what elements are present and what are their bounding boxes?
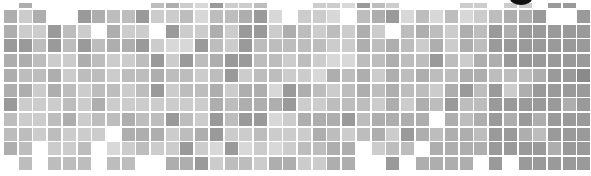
heatmap-cell <box>195 3 208 8</box>
heatmap-cell <box>78 84 91 97</box>
heatmap-cell <box>342 25 355 38</box>
heatmap-cell <box>122 69 135 82</box>
heatmap-cell <box>180 113 193 126</box>
heatmap-cell <box>313 3 326 8</box>
heatmap-cell <box>4 54 17 67</box>
heatmap-cell <box>401 25 414 38</box>
heatmap-cell <box>48 39 61 52</box>
heatmap-cell <box>533 128 546 141</box>
heatmap-cell <box>298 157 311 170</box>
heatmap-cell <box>4 10 17 23</box>
heatmap-cell <box>298 25 311 38</box>
heatmap-cell <box>416 128 429 141</box>
heatmap-cell <box>269 84 282 97</box>
heatmap-cell <box>489 10 502 23</box>
heatmap-cell <box>225 25 238 38</box>
heatmap-cell <box>269 10 282 23</box>
heatmap-cell <box>416 113 429 126</box>
heatmap-cell <box>19 157 32 170</box>
heatmap-cell <box>225 10 238 23</box>
heatmap-cell <box>254 142 267 155</box>
heatmap-cell <box>269 157 282 170</box>
heatmap-cell <box>519 113 532 126</box>
heatmap-cell <box>548 39 561 52</box>
heatmap-cell <box>254 54 267 67</box>
heatmap-cell <box>474 39 487 52</box>
heatmap-cell <box>563 157 576 170</box>
heatmap-cell <box>180 25 193 38</box>
heatmap-cell <box>269 142 282 155</box>
heatmap-cell <box>533 25 546 38</box>
heatmap-cell <box>313 98 326 111</box>
heatmap-cell <box>63 84 76 97</box>
heatmap-cell <box>48 25 61 38</box>
heatmap-cell <box>19 142 32 155</box>
heatmap-cell <box>327 69 340 82</box>
heatmap-cell <box>474 113 487 126</box>
heatmap-cell <box>225 157 238 170</box>
heatmap-cell <box>195 113 208 126</box>
heatmap-cell <box>195 69 208 82</box>
heatmap-cell <box>4 84 17 97</box>
heatmap-cell <box>445 69 458 82</box>
heatmap-cell <box>136 69 149 82</box>
heatmap-cell <box>180 142 193 155</box>
heatmap-cell <box>372 39 385 52</box>
heatmap-cell <box>180 3 193 8</box>
heatmap-cell <box>563 54 576 67</box>
heatmap-cell <box>519 69 532 82</box>
heatmap-cell <box>327 25 340 38</box>
heatmap-cell <box>195 142 208 155</box>
heatmap-cell <box>107 142 120 155</box>
heatmap-cell <box>313 69 326 82</box>
heatmap-cell <box>474 98 487 111</box>
heatmap-cell <box>313 157 326 170</box>
heatmap-cell <box>577 113 590 126</box>
heatmap-cell <box>107 157 120 170</box>
heatmap-cell <box>372 98 385 111</box>
heatmap-cell <box>401 39 414 52</box>
heatmap-cell <box>372 3 385 8</box>
heatmap-cell <box>577 69 590 82</box>
heatmap-cell <box>269 98 282 111</box>
heatmap-cell <box>48 54 61 67</box>
heatmap-cell <box>519 157 532 170</box>
heatmap-cell <box>107 54 120 67</box>
heatmap-cell <box>489 84 502 97</box>
heatmap-cell <box>92 98 105 111</box>
heatmap-cell <box>195 39 208 52</box>
heatmap-cell <box>430 128 443 141</box>
heatmap-cell <box>342 128 355 141</box>
heatmap-cell <box>430 10 443 23</box>
heatmap-cell <box>342 142 355 155</box>
heatmap-cell <box>33 128 46 141</box>
heatmap-cell <box>401 54 414 67</box>
heatmap-cell <box>122 10 135 23</box>
heatmap-cell <box>401 142 414 155</box>
heatmap-cell <box>298 69 311 82</box>
heatmap-cell <box>504 54 517 67</box>
heatmap-cell <box>78 25 91 38</box>
heatmap-cell <box>225 84 238 97</box>
heatmap-cell <box>298 113 311 126</box>
heatmap-cell <box>254 157 267 170</box>
heatmap-cell <box>298 10 311 23</box>
heatmap-cell <box>416 98 429 111</box>
heatmap-cell <box>136 128 149 141</box>
heatmap-cell <box>122 25 135 38</box>
heatmap-cell <box>357 84 370 97</box>
heatmap-cell <box>63 142 76 155</box>
heatmap-cell <box>92 84 105 97</box>
heatmap-cell <box>416 39 429 52</box>
heatmap-cell <box>166 142 179 155</box>
heatmap-cell <box>78 157 91 170</box>
heatmap-cell <box>92 113 105 126</box>
heatmap-cell <box>63 39 76 52</box>
heatmap-cell <box>151 98 164 111</box>
heatmap-cell <box>151 128 164 141</box>
heatmap-cell <box>283 54 296 67</box>
heatmap-cell <box>19 69 32 82</box>
heatmap-cell <box>342 39 355 52</box>
heatmap-cell <box>386 39 399 52</box>
heatmap-cell <box>577 84 590 97</box>
